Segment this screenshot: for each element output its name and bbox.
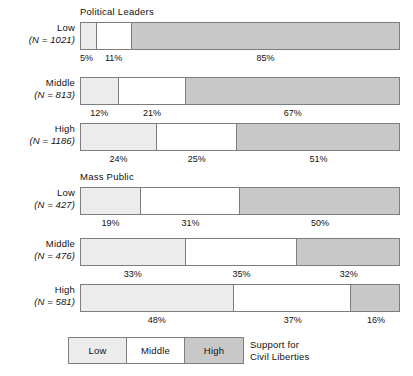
- stacked-bar: [80, 123, 400, 151]
- row-n-label: (N = 581): [0, 296, 75, 308]
- legend-item-low: Low: [69, 338, 127, 363]
- bar-value-label-middle: 21%: [118, 107, 185, 120]
- row-level-label: Low: [0, 22, 75, 34]
- row-n-label: (N = 476): [0, 250, 75, 262]
- bar-group-mass-middle: Middle (N = 476) 33% 35% 32%: [0, 238, 413, 282]
- bar-value-label-high: 51%: [237, 153, 400, 166]
- bar-value-label-low: 24%: [80, 153, 157, 166]
- bar-value-labels: 5% 11% 85%: [80, 52, 400, 65]
- stacked-bar: [80, 187, 400, 215]
- bar-value-label-low: 12%: [80, 107, 118, 120]
- row-n-label: (N = 427): [0, 199, 75, 211]
- legend-item-middle: Middle: [127, 338, 185, 363]
- bar-group-political-middle: Middle (N = 813) 12% 21% 67%: [0, 77, 413, 121]
- bar-value-label-low: 5%: [80, 52, 96, 65]
- row-n-label: (N = 1021): [0, 34, 75, 46]
- bar-value-label-low: 48%: [80, 314, 234, 327]
- bar-segment-middle: [141, 188, 240, 214]
- bar-value-label-high: 85%: [131, 52, 400, 65]
- bar-group-political-low: Low (N = 1021) 5% 11% 85%: [0, 22, 413, 66]
- row-level-label: High: [0, 123, 75, 135]
- bar-value-label-high: 32%: [298, 268, 400, 281]
- bar-value-labels: 19% 31% 50%: [80, 217, 400, 230]
- stacked-bar: [80, 238, 400, 266]
- legend-item-high: High: [185, 338, 243, 363]
- stacked-bar: [80, 22, 400, 50]
- bar-group-political-high: High (N = 1186) 24% 25% 51%: [0, 123, 413, 167]
- bar-value-label-middle: 25%: [157, 153, 237, 166]
- bar-value-label-middle: 11%: [96, 52, 131, 65]
- stacked-bar: [80, 77, 400, 105]
- panel-title-political-leaders: Political Leaders: [80, 6, 154, 17]
- bar-segment-middle: [234, 285, 352, 311]
- bar-segment-middle: [157, 124, 237, 150]
- bar-segment-high: [237, 124, 399, 150]
- bar-segment-low: [81, 78, 119, 104]
- bar-segment-low: [81, 285, 234, 311]
- row-label-political-high: High (N = 1186): [0, 123, 75, 146]
- legend-caption-line-2: Civil Liberties: [250, 351, 310, 363]
- bar-value-labels: 24% 25% 51%: [80, 153, 400, 166]
- row-label-political-low: Low (N = 1021): [0, 22, 75, 45]
- row-level-label: Middle: [0, 238, 75, 250]
- row-label-mass-low: Low (N = 427): [0, 187, 75, 210]
- row-n-label: (N = 813): [0, 89, 75, 101]
- bar-segment-high: [240, 188, 399, 214]
- bar-group-mass-high: High (N = 581) 48% 37% 16%: [0, 284, 413, 328]
- legend-swatch-box: Low Middle High: [68, 337, 244, 364]
- bar-value-label-high: 50%: [240, 217, 400, 230]
- bar-segment-low: [81, 23, 97, 49]
- row-label-mass-middle: Middle (N = 476): [0, 238, 75, 261]
- bar-segment-high: [186, 78, 399, 104]
- stacked-bar: [80, 284, 400, 312]
- bar-segment-low: [81, 124, 157, 150]
- bar-segment-middle: [97, 23, 132, 49]
- bar-value-label-high: 16%: [352, 314, 400, 327]
- row-n-label: (N = 1186): [0, 135, 75, 147]
- legend-caption: Support for Civil Liberties: [250, 339, 310, 363]
- bar-value-labels: 33% 35% 32%: [80, 268, 400, 281]
- bar-group-mass-low: Low (N = 427) 19% 31% 50%: [0, 187, 413, 231]
- bar-segment-high: [351, 285, 399, 311]
- bar-value-label-middle: 37%: [234, 314, 352, 327]
- row-level-label: High: [0, 284, 75, 296]
- chart-legend: Low Middle High Support for Civil Libert…: [0, 337, 413, 370]
- bar-value-labels: 48% 37% 16%: [80, 314, 400, 327]
- bar-segment-middle: [186, 239, 297, 265]
- bar-value-labels: 12% 21% 67%: [80, 107, 400, 120]
- bar-value-label-middle: 35%: [186, 268, 298, 281]
- row-level-label: Middle: [0, 77, 75, 89]
- stacked-bar-chart: Political Leaders Low (N = 1021) 5% 11% …: [0, 0, 413, 376]
- panel-title-mass-public: Mass Public: [80, 171, 134, 182]
- bar-segment-low: [81, 188, 141, 214]
- bar-value-label-low: 33%: [80, 268, 186, 281]
- bar-segment-middle: [119, 78, 186, 104]
- row-label-mass-high: High (N = 581): [0, 284, 75, 307]
- bar-value-label-middle: 31%: [141, 217, 240, 230]
- legend-caption-line-1: Support for: [250, 339, 310, 351]
- row-label-political-middle: Middle (N = 813): [0, 77, 75, 100]
- bar-segment-high: [132, 23, 399, 49]
- bar-segment-low: [81, 239, 186, 265]
- bar-segment-high: [297, 239, 399, 265]
- bar-value-label-high: 67%: [186, 107, 400, 120]
- row-level-label: Low: [0, 187, 75, 199]
- bar-value-label-low: 19%: [80, 217, 141, 230]
